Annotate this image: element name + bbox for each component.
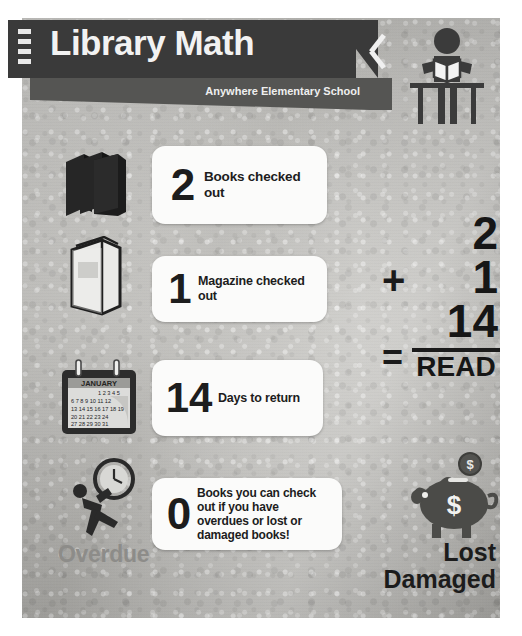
math-operand-1: 2 bbox=[410, 210, 498, 256]
card-zero-checkouts: 0 Books you can check out if you have ov… bbox=[152, 478, 342, 550]
lost-damaged-label: Lost Damaged bbox=[383, 539, 496, 592]
svg-text:$: $ bbox=[447, 490, 462, 520]
math-result: READ bbox=[412, 351, 500, 383]
open-magazine-icon bbox=[58, 236, 134, 320]
school-subtitle: Anywhere Elementary School bbox=[205, 85, 360, 97]
days-to-return-label: Days to return bbox=[218, 391, 300, 406]
stack-of-books-icon bbox=[58, 148, 134, 220]
magazine-label: Magazine checked out bbox=[198, 274, 317, 304]
svg-text:27 28 29 30 31: 27 28 29 30 31 bbox=[71, 421, 108, 427]
library-math-poster: Library Math Anywhere Elementary School bbox=[0, 0, 522, 636]
math-operand-3: 14 bbox=[410, 298, 498, 344]
piggy-bank-icon: $ $ bbox=[404, 450, 508, 542]
person-reading-icon bbox=[404, 24, 490, 124]
svg-text:JANUARY: JANUARY bbox=[81, 379, 117, 388]
svg-text:13 14 15 16 17 18 19: 13 14 15 16 17 18 19 bbox=[71, 406, 124, 412]
zero-checkout-label: Books you can check out if you have over… bbox=[197, 486, 333, 543]
svg-text:$: $ bbox=[466, 457, 474, 472]
books-label: Books checked out bbox=[204, 169, 317, 201]
card-books-checked-out: 2 Books checked out bbox=[152, 146, 327, 224]
equals-sign: = bbox=[382, 340, 403, 376]
damaged-text: Damaged bbox=[383, 566, 496, 593]
math-operand-2: 1 bbox=[410, 254, 498, 300]
page-title: Library Math bbox=[50, 23, 254, 63]
magazine-count-value: 1 bbox=[162, 268, 198, 310]
svg-text:1 2 3 4 5: 1 2 3 4 5 bbox=[98, 390, 120, 396]
svg-text:6 7 8 9 10 11 12: 6 7 8 9 10 11 12 bbox=[71, 398, 111, 404]
lost-text: Lost bbox=[383, 539, 496, 566]
double-chevron-left-icon bbox=[366, 33, 384, 65]
overdue-label: Overdue bbox=[58, 541, 149, 568]
card-days-to-return: 14 Days to return bbox=[152, 360, 323, 436]
banner-tick-marks-icon bbox=[18, 29, 31, 69]
header-banner-sub: Anywhere Elementary School bbox=[30, 78, 392, 110]
svg-text:20 21 22 23 24: 20 21 22 23 24 bbox=[71, 414, 108, 420]
overdue-clock-carrier-icon bbox=[62, 458, 148, 544]
zero-checkout-value: 0 bbox=[161, 492, 197, 536]
calendar-icon: JANUARY 1 2 3 4 5 6 7 8 9 10 11 12 13 14… bbox=[58, 356, 140, 440]
card-magazine-checked-out: 1 Magazine checked out bbox=[152, 256, 327, 322]
math-equation: + 2 1 14 = READ bbox=[378, 212, 504, 387]
plus-sign: + bbox=[382, 260, 405, 300]
header-banner: Library Math Anywhere Elementary School bbox=[8, 20, 398, 120]
books-count-value: 2 bbox=[162, 163, 204, 207]
days-to-return-value: 14 bbox=[160, 377, 218, 419]
